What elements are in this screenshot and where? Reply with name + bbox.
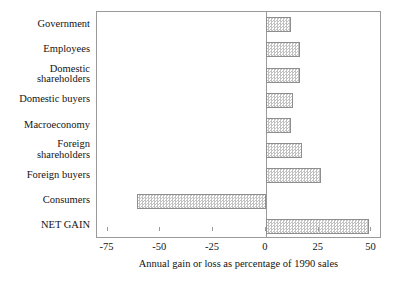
y-axis-label: Macroeconomy: [0, 120, 90, 131]
x-axis-tick-label: 25: [312, 241, 323, 252]
x-axis-tick: [159, 227, 160, 231]
bar: [266, 17, 291, 32]
bar: [266, 42, 300, 57]
y-axis-label: Employees: [0, 44, 90, 55]
x-axis-tick-label: 0: [262, 241, 267, 252]
y-axis-label: Domestic shareholders: [0, 64, 90, 85]
x-axis-tick: [370, 227, 371, 231]
y-axis-label: Government: [0, 19, 90, 30]
x-axis-tick-label: -25: [205, 241, 219, 252]
bar: [266, 143, 302, 158]
bar: [137, 194, 266, 209]
x-axis-tick: [265, 227, 266, 231]
x-axis-tick-label: -50: [152, 241, 166, 252]
bar: [266, 168, 321, 183]
y-axis-label: NET GAIN: [0, 220, 90, 231]
y-axis-category-labels: GovernmentEmployeesDomestic shareholders…: [0, 11, 93, 238]
plot-area: [97, 12, 380, 237]
x-axis-tick: [318, 227, 319, 231]
x-axis-tick: [212, 227, 213, 231]
x-axis-tick-label: -75: [100, 241, 114, 252]
y-axis-label: Foreign shareholders: [0, 139, 90, 160]
x-axis-title: Annual gain or loss as percentage of 199…: [96, 258, 381, 270]
chart-figure: GovernmentEmployeesDomestic shareholders…: [0, 0, 393, 284]
x-axis-tick: [107, 227, 108, 231]
y-axis-label: Foreign buyers: [0, 170, 90, 181]
x-axis-tick-label: 50: [365, 241, 376, 252]
bar: [266, 93, 293, 108]
y-axis-label: Consumers: [0, 195, 90, 206]
y-axis-label: Domestic buyers: [0, 94, 90, 105]
bar: [266, 68, 300, 83]
plot-frame: [96, 11, 381, 238]
bar: [266, 118, 291, 133]
